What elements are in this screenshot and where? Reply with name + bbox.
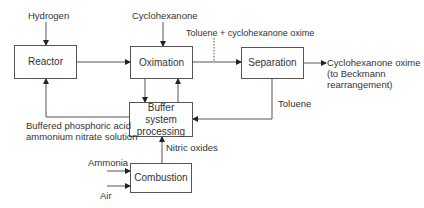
node-separation: Separation [241, 47, 304, 79]
node-combustion-label: Combustion [134, 172, 187, 184]
label-air: Air [100, 190, 112, 201]
node-reactor: Reactor [14, 45, 77, 79]
label-ammonia: Ammonia [88, 157, 128, 168]
node-separation-label: Separation [248, 57, 296, 69]
label-buffered-line1: Buffered phosphoric acid [26, 120, 131, 131]
node-oximation: Oximation [130, 46, 193, 79]
label-cyclohexanone: Cyclohexanone [132, 10, 198, 21]
node-reactor-label: Reactor [28, 56, 63, 68]
arrow-toluene-buffer [193, 79, 272, 119]
label-buffered-line2: ammonium nitrate solution [26, 131, 137, 142]
label-toluene: Toluene [278, 98, 311, 109]
label-toluene-oxime: Toluene + cyclohexanone oxime [186, 28, 314, 39]
node-buffer-system-label: Buffer system processing [136, 102, 186, 138]
node-combustion: Combustion [130, 163, 192, 193]
label-nitric-oxides: Nitric oxides [166, 142, 218, 153]
label-output-line1: Cyclohexanone oxime [327, 57, 420, 68]
label-hydrogen: Hydrogen [28, 10, 69, 21]
node-oximation-label: Oximation [139, 57, 184, 69]
label-output-line2: (to Beckmann [327, 68, 386, 79]
node-buffer-system: Buffer system processing [129, 102, 193, 137]
label-output-line3: rearrangement) [327, 79, 392, 90]
arrow-buffer-reactor [46, 79, 129, 117]
